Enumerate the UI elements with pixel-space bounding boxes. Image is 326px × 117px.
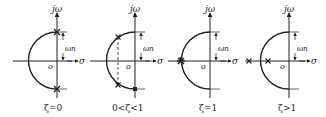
jomega-label: jω — [50, 4, 63, 14]
omega-n-label: ωn — [143, 44, 154, 53]
panel-underdamped: jω ωn σ o 0<ζ<1 — [90, 4, 164, 113]
caption: ζ>1 — [278, 103, 296, 113]
s-plane-diagram: jω ωn σ o ζ=0 jω ωn σ o 0<ζ<1 — [0, 0, 326, 117]
sigma-label: σ — [232, 56, 239, 66]
jomega-label: jω — [128, 4, 141, 14]
caption: ζ=1 — [199, 103, 217, 113]
sigma-label: σ — [79, 56, 86, 66]
origin-label: o — [201, 62, 206, 71]
origin-label: o — [48, 62, 53, 71]
origin-label: o — [280, 62, 285, 71]
omega-n-label: ωn — [65, 44, 76, 53]
sigma-label: σ — [311, 56, 318, 66]
caption: ζ=0 — [44, 103, 62, 113]
jomega-label: jω — [282, 4, 295, 14]
panel-critically-damped: jω ωn σ o ζ=1 — [168, 4, 239, 113]
omega-n-label: ωn — [297, 44, 308, 53]
origin-label: o — [126, 62, 131, 71]
sigma-label: σ — [157, 56, 164, 66]
omega-n-label: ωn — [218, 44, 229, 53]
double-pole-marker — [177, 57, 185, 65]
jomega-label: jω — [203, 4, 216, 14]
panel-overdamped: jω ωn σ o ζ>1 — [245, 4, 318, 113]
panel-undamped: jω ωn σ o ζ=0 — [13, 4, 86, 113]
caption: 0<ζ<1 — [112, 103, 143, 113]
